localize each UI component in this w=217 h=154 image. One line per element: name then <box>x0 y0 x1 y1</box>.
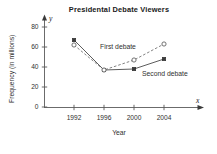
x-tick-label-1996: 1996 <box>97 114 112 121</box>
plot-area: First debate Second debate <box>72 38 188 77</box>
y-tick-label-80: 80 <box>31 23 39 30</box>
y-tick-label-0: 0 <box>35 103 39 110</box>
y-axis-title: Frequency (in millions) <box>8 35 16 103</box>
x-tick-label-1992: 1992 <box>67 114 82 121</box>
second-debate-point-1992 <box>72 38 75 41</box>
first-debate-label: First debate <box>100 43 136 50</box>
x-tick-label-2000: 2000 <box>127 114 142 121</box>
y-tick-label-20: 20 <box>31 83 39 90</box>
first-debate-point-1996 <box>102 68 106 72</box>
second-debate-label: Second debate <box>142 70 188 77</box>
x-axis: x 1992 1996 2000 2004 Year <box>45 96 205 136</box>
first-debate-point-2000 <box>132 58 136 62</box>
x-tick-label-2004: 2004 <box>157 114 172 121</box>
first-debate-point-2004 <box>162 42 166 46</box>
x-axis-symbol: x <box>195 96 200 105</box>
first-debate-point-1992 <box>72 43 76 47</box>
chart-container: Presidental Debate Viewers y 80 60 40 20… <box>0 0 217 154</box>
y-tick-label-40: 40 <box>31 63 39 70</box>
y-axis-symbol: y <box>48 14 53 23</box>
y-axis: y 80 60 40 20 0 Frequency (in millions) <box>8 14 53 110</box>
y-tick-label-60: 60 <box>31 43 39 50</box>
chart-title: Presidental Debate Viewers <box>69 5 169 14</box>
x-axis-title: Year <box>112 129 126 136</box>
second-debate-point-2000 <box>132 67 135 70</box>
second-debate-point-2004 <box>162 57 165 60</box>
